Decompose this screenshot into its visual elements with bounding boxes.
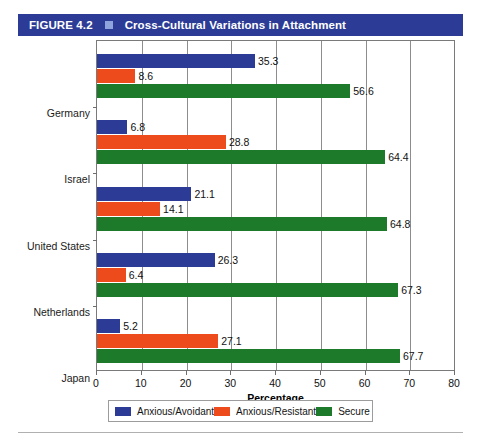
category-label-united-states: United States <box>0 239 90 253</box>
bar-secure-netherlands <box>97 283 398 297</box>
group-separator-tick <box>93 107 97 108</box>
x-tick-label: 50 <box>314 377 326 389</box>
bar-value-label: 35.3 <box>258 54 278 68</box>
bar-anxious-resistant-germany <box>97 69 135 83</box>
legend-label: Secure <box>338 406 370 417</box>
x-tick-mark <box>365 370 366 375</box>
group-separator-tick <box>93 306 97 307</box>
bar-value-label: 28.8 <box>229 135 249 149</box>
bar-value-label: 56.6 <box>353 84 373 98</box>
bar-anxious-resistant-united-states <box>97 202 160 216</box>
legend-swatch-icon <box>316 407 332 416</box>
bar-anxious-avoidant-israel <box>97 120 127 134</box>
bottom-divider <box>18 432 463 433</box>
bar-value-label: 64.8 <box>390 217 410 231</box>
x-tick-label: 30 <box>224 377 236 389</box>
bar-secure-japan <box>97 349 400 363</box>
figure-title: Cross-Cultural Variations in Attachment <box>125 19 346 31</box>
bar-anxious-avoidant-united-states <box>97 187 191 201</box>
x-tick-mark <box>230 370 231 375</box>
bar-anxious-avoidant-germany <box>97 54 255 68</box>
bar-value-label: 8.6 <box>138 69 153 83</box>
legend-item-anxious-avoidant[interactable]: Anxious/Avoidant <box>115 406 214 417</box>
x-tick-label: 60 <box>359 377 371 389</box>
bar-secure-united-states <box>97 217 387 231</box>
legend-item-anxious-resistant[interactable]: Anxious/Resistant <box>214 406 316 417</box>
blue-square-icon <box>105 21 113 29</box>
x-tick-mark <box>96 370 97 375</box>
x-tick-mark <box>409 370 410 375</box>
x-tick-mark <box>141 370 142 375</box>
x-tick-label: 0 <box>93 377 99 389</box>
x-tick-mark <box>454 370 455 375</box>
x-tick-label: 80 <box>448 377 460 389</box>
bar-value-label: 14.1 <box>163 202 183 216</box>
bar-value-label: 67.7 <box>403 349 423 363</box>
bar-value-label: 27.1 <box>221 334 241 348</box>
bar-anxious-resistant-japan <box>97 334 218 348</box>
x-tick-mark <box>186 370 187 375</box>
chart-container: 35.38.656.66.828.864.421.114.164.826.36.… <box>0 38 481 383</box>
bar-value-label: 6.4 <box>129 268 144 282</box>
category-label-japan: Japan <box>0 371 90 385</box>
bar-anxious-resistant-netherlands <box>97 268 126 282</box>
bar-anxious-avoidant-netherlands <box>97 253 215 267</box>
legend-label: Anxious/Resistant <box>236 406 316 417</box>
x-tick-label: 20 <box>180 377 192 389</box>
bar-value-label: 21.1 <box>194 187 214 201</box>
bar-value-label: 64.4 <box>388 150 408 164</box>
bar-value-label: 67.3 <box>401 283 421 297</box>
group-separator-tick <box>93 240 97 241</box>
x-tick-label: 70 <box>403 377 415 389</box>
bar-value-label: 26.3 <box>218 253 238 267</box>
x-tick-label: 10 <box>135 377 147 389</box>
category-label-germany: Germany <box>0 106 90 120</box>
figure-header-bar: FIGURE 4.2 Cross-Cultural Variations in … <box>18 14 463 36</box>
bar-secure-israel <box>97 150 385 164</box>
x-tick-label: 40 <box>269 377 281 389</box>
legend-swatch-icon <box>115 407 131 416</box>
x-tick-mark <box>320 370 321 375</box>
group-separator-tick <box>93 173 97 174</box>
figure-number: FIGURE 4.2 <box>29 19 93 31</box>
category-label-israel: Israel <box>0 172 90 186</box>
bar-secure-germany <box>97 84 350 98</box>
legend-item-secure[interactable]: Secure <box>316 406 370 417</box>
gridline <box>410 41 411 370</box>
bar-anxious-resistant-israel <box>97 135 226 149</box>
legend-swatch-icon <box>214 407 230 416</box>
x-tick-mark <box>275 370 276 375</box>
bar-value-label: 6.8 <box>130 120 145 134</box>
chart-legend: Anxious/AvoidantAnxious/ResistantSecure <box>108 400 373 422</box>
legend-label: Anxious/Avoidant <box>137 406 214 417</box>
bar-anxious-avoidant-japan <box>97 319 120 333</box>
category-label-netherlands: Netherlands <box>0 305 90 319</box>
plot-area: 35.38.656.66.828.864.421.114.164.826.36.… <box>96 40 455 371</box>
bar-value-label: 5.2 <box>123 319 138 333</box>
